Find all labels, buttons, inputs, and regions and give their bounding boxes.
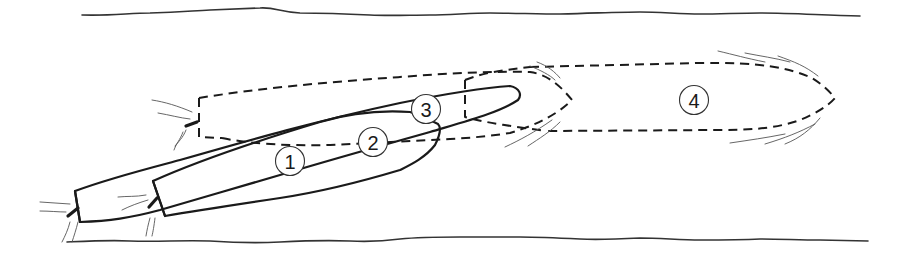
motor-icon xyxy=(149,198,157,207)
svg-text:1: 1 xyxy=(284,151,295,173)
motor-icon xyxy=(68,208,78,216)
bottom-bank-line xyxy=(67,237,868,243)
boat-positions-diagram: 1 2 3 4 xyxy=(0,0,899,265)
top-bank-line xyxy=(82,8,860,16)
svg-text:4: 4 xyxy=(688,90,699,112)
position-label-4: 4 xyxy=(680,86,709,115)
motor-icon xyxy=(186,122,197,126)
svg-text:3: 3 xyxy=(420,99,431,121)
bow-spray-icon xyxy=(505,62,560,147)
stern-wake-icon xyxy=(40,202,78,242)
boat-position-2 xyxy=(118,111,440,236)
position-label-2: 2 xyxy=(359,128,388,157)
svg-text:2: 2 xyxy=(367,132,378,154)
position-label-3: 3 xyxy=(412,95,441,124)
position-label-1: 1 xyxy=(276,147,305,176)
